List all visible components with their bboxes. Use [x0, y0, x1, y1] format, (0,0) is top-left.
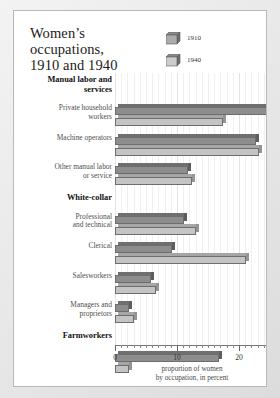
- bar-1910: [115, 216, 184, 224]
- x-axis-tick: [214, 345, 215, 348]
- x-axis-tick: [227, 345, 228, 348]
- bar-1940: [115, 286, 156, 294]
- bar-1940: [115, 177, 192, 185]
- bar-1940: [115, 315, 134, 323]
- x-axis-tick: [208, 345, 209, 348]
- group-label: Farmworkers: [28, 331, 112, 341]
- x-axis-tick: [239, 345, 240, 351]
- category-label: Other manual laboror service: [28, 163, 112, 180]
- cube-icon-1940: [166, 54, 181, 67]
- category-label-line: Salesworkers: [28, 272, 112, 281]
- bar-pair: [115, 240, 267, 270]
- x-axis-tick: [245, 345, 246, 348]
- bars-layer: [115, 73, 267, 345]
- x-axis-tick: [251, 345, 252, 348]
- category-label: Clerical: [28, 242, 112, 251]
- bar-pair: [115, 299, 267, 329]
- chart-title: Women’s occupations, 1910 and 1940: [30, 25, 160, 73]
- x-axis-tick: [258, 345, 259, 348]
- x-axis-tick: [158, 345, 159, 348]
- bar-1940: [115, 227, 196, 235]
- x-axis-tick: [127, 345, 128, 348]
- category-label-line: Machine operators: [28, 134, 112, 143]
- category-label: Machine operators: [28, 134, 112, 143]
- category-label: Salesworkers: [28, 272, 112, 281]
- x-axis-tick: [183, 345, 184, 348]
- x-axis-tick: [165, 345, 166, 348]
- chart-card: Women’s occupations, 1910 and 1940 1910: [13, 10, 267, 387]
- x-axis-tick: [189, 345, 190, 348]
- bar-1940: [115, 118, 223, 126]
- x-axis-tick-label: 0: [113, 353, 117, 362]
- legend-label-1910: 1910: [187, 34, 201, 42]
- poster-frame: Women’s occupations, 1910 and 1940 1910: [0, 0, 280, 398]
- x-axis-tick-labels: 01020: [110, 353, 267, 363]
- x-axis-tick: [140, 345, 141, 348]
- category-label-line: or service: [28, 172, 112, 181]
- group-label-line: services: [28, 85, 112, 95]
- category-label-line: and technical: [28, 221, 112, 230]
- legend-item-1910: 1910: [166, 27, 201, 49]
- x-axis-tick: [196, 345, 197, 348]
- bar-1940: [115, 256, 246, 264]
- category-label: Managers andproprietors: [28, 301, 112, 318]
- x-axis-line: [115, 345, 267, 346]
- chart-title-line1: Women’s occupations,: [30, 25, 160, 57]
- group-label-line: Manual labor and: [28, 75, 112, 85]
- bar-1910: [115, 107, 267, 115]
- bar-1940: [115, 148, 259, 156]
- x-axis-title-line1: proportion of women: [110, 365, 267, 374]
- chart-title-line2: 1910 and 1940: [30, 57, 160, 73]
- group-label: White-collar: [28, 193, 112, 203]
- x-axis-tick: [115, 345, 116, 351]
- x-axis-tick: [134, 345, 135, 348]
- x-axis-tick: [233, 345, 234, 348]
- group-label-line: Farmworkers: [28, 331, 112, 341]
- category-label-line: Clerical: [28, 242, 112, 251]
- category-label-line: proprietors: [28, 310, 112, 319]
- bar-1910: [115, 166, 188, 174]
- legend-item-1940: 1940: [166, 49, 201, 71]
- x-axis-tick: [177, 345, 178, 351]
- x-axis-tick: [220, 345, 221, 348]
- category-label: Professionaland technical: [28, 213, 112, 230]
- bar-1910: [115, 137, 256, 145]
- bar-pair: [115, 132, 267, 162]
- x-axis-tick-label: 10: [173, 353, 181, 362]
- group-label: Manual labor andservices: [28, 75, 112, 94]
- x-axis-tick: [202, 345, 203, 348]
- legend: 1910 1940: [166, 27, 201, 71]
- category-label-column: Manual labor andservicesPrivate househol…: [28, 73, 112, 345]
- category-label: Private householdworkers: [28, 104, 112, 121]
- x-axis-tick: [152, 345, 153, 348]
- group-label-line: White-collar: [28, 193, 112, 203]
- bar-pair: [115, 102, 267, 132]
- legend-label-1940: 1940: [187, 56, 201, 64]
- plot-area: [115, 73, 267, 345]
- x-axis-tick: [171, 345, 172, 348]
- bar-1910: [115, 245, 172, 253]
- bar-pair: [115, 161, 267, 191]
- x-axis-title-line2: by occupation, in percent: [110, 374, 267, 383]
- x-axis-tick-label: 20: [235, 353, 243, 362]
- x-axis-tick: [121, 345, 122, 348]
- bar-1910: [115, 275, 151, 283]
- bar-1910: [115, 304, 129, 312]
- x-axis-tick: [146, 345, 147, 348]
- cube-icon-1910: [166, 32, 181, 45]
- bar-pair: [115, 270, 267, 300]
- category-label-line: workers: [28, 113, 112, 122]
- x-axis-title: proportion of women by occupation, in pe…: [110, 365, 267, 383]
- bar-pair: [115, 211, 267, 241]
- x-axis-tick: [264, 345, 265, 348]
